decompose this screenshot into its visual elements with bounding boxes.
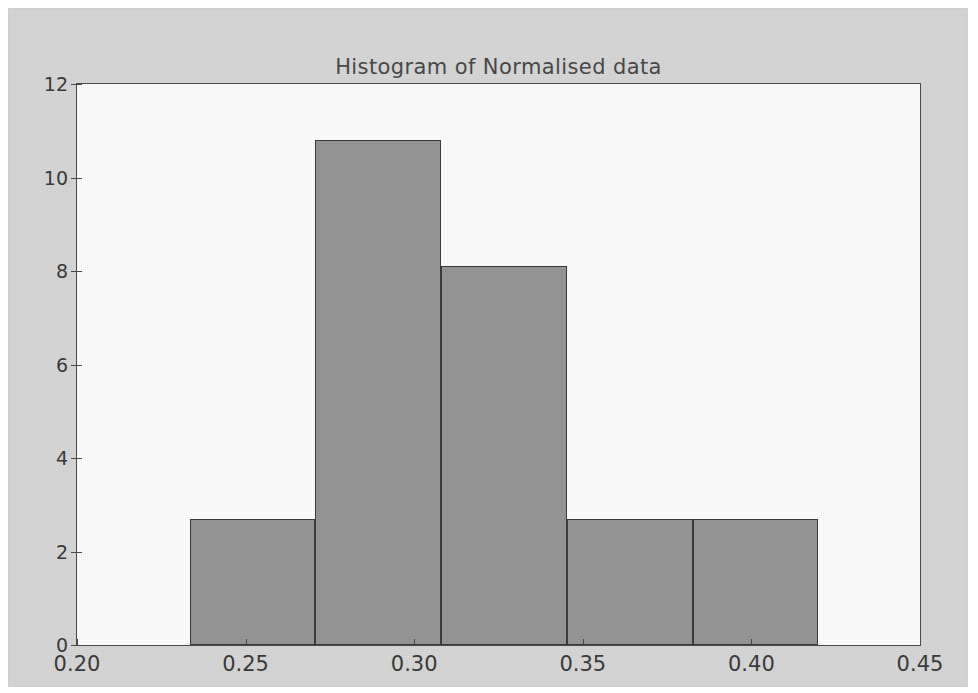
y-axis-tick-label: 2 [56, 541, 68, 563]
x-axis-tick-label: 0.35 [559, 652, 606, 676]
y-axis-tick-label: 4 [56, 447, 68, 469]
x-axis-tick-label: 0.45 [897, 652, 944, 676]
y-axis-tick-mark-inner [77, 271, 82, 272]
x-axis-tick-mark [751, 639, 752, 645]
histogram-bar [441, 266, 567, 645]
x-axis-tick-label: 0.20 [54, 652, 101, 676]
y-axis-tick-mark-inner [77, 458, 82, 459]
x-axis-tick-label: 0.40 [728, 652, 775, 676]
matplotlib-figure: Histogram of Normalised data 024681012 0… [8, 8, 968, 687]
y-axis-tick-mark-inner [77, 178, 82, 179]
y-axis-tick-label: 8 [56, 260, 68, 282]
y-axis-tick-mark-inner [77, 84, 82, 85]
y-axis-tick-mark-inner [77, 552, 82, 553]
x-axis-tick-mark [246, 639, 247, 645]
x-axis-tick-mark [414, 639, 415, 645]
figure-outer-margin: Histogram of Normalised data 024681012 0… [0, 0, 978, 693]
y-axis-tick-label: 12 [44, 73, 68, 95]
x-axis-tick-mark [77, 639, 78, 645]
y-axis-tick-label: 6 [56, 354, 68, 376]
page-title: Histogram of Normalised data [76, 55, 921, 79]
histogram-bar [693, 519, 818, 645]
x-axis-tick-label: 0.25 [222, 652, 269, 676]
histogram-bar [315, 140, 441, 645]
histogram-bar [567, 519, 693, 645]
x-axis-tick-mark [920, 639, 921, 645]
histogram-plot-area: 024681012 0.200.250.300.350.400.45 [76, 83, 921, 646]
y-axis-tick-label: 10 [44, 167, 68, 189]
y-axis-tick-mark-inner [77, 365, 82, 366]
y-axis-tick-mark-inner [77, 645, 82, 646]
x-axis-tick-mark [583, 639, 584, 645]
histogram-bar [190, 519, 316, 645]
x-axis-tick-label: 0.30 [391, 652, 438, 676]
